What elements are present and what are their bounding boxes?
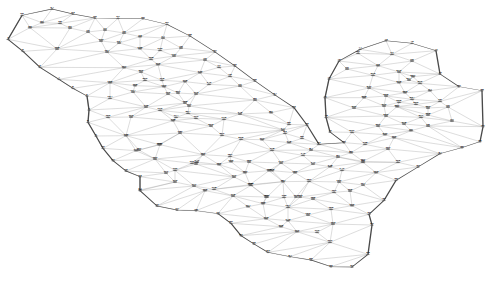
mesh-node-177[interactable] [260,139,264,140]
mesh-node-140[interactable] [207,84,211,85]
mesh-node-124[interactable] [108,98,112,99]
mesh-node-160[interactable] [229,161,233,162]
mesh-node-117[interactable] [192,185,196,186]
mesh-node-225[interactable] [397,102,401,103]
mesh-node-34[interactable] [439,153,442,154]
mesh-node-126[interactable] [106,117,110,118]
mesh-node-45[interactable] [338,61,341,62]
mesh-node-83[interactable] [283,133,287,134]
mesh-node-62[interactable] [94,18,97,19]
mesh-node-97[interactable] [450,120,454,121]
mesh-node-163[interactable] [294,196,298,197]
mesh-node-181[interactable] [307,181,311,182]
mesh-node-111[interactable] [295,231,299,232]
mesh-node-200[interactable] [143,80,147,81]
mesh-node-48[interactable] [325,117,328,118]
mesh-node-37[interactable] [482,126,485,127]
mesh-node-162[interactable] [203,190,207,191]
mesh-node-214[interactable] [407,79,411,80]
mesh-node-99[interactable] [409,130,413,131]
mesh-node-17[interactable] [176,210,179,211]
mesh-node-38[interactable] [481,90,484,91]
mesh-node-146[interactable] [301,155,305,156]
mesh-node-221[interactable] [395,106,399,107]
mesh-node-229[interactable] [426,107,430,108]
mesh-node-161[interactable] [194,163,198,164]
mesh-node-119[interactable] [232,176,236,177]
mesh-node-63[interactable] [72,14,75,15]
mesh-node-223[interactable] [403,92,407,93]
mesh-node-84[interactable] [309,149,313,150]
mesh-node-59[interactable] [166,24,169,25]
mesh-node-67[interactable] [40,22,44,23]
mesh-node-168[interactable] [149,59,153,60]
mesh-node-142[interactable] [238,113,242,114]
mesh-node-50[interactable] [343,142,346,143]
mesh-node-41[interactable] [435,50,438,51]
mesh-node-192[interactable] [144,106,148,107]
mesh-node-69[interactable] [68,27,72,28]
mesh-node-222[interactable] [384,95,388,96]
mesh-node-197[interactable] [187,105,191,106]
mesh-node-199[interactable] [194,118,198,119]
mesh-node-5[interactable] [72,88,75,89]
mesh-node-128[interactable] [55,48,59,49]
mesh-node-39[interactable] [458,86,461,87]
mesh-node-8[interactable] [87,122,90,123]
mesh-node-125[interactable] [108,82,112,83]
mesh-node-169[interactable] [162,86,166,87]
mesh-node-22[interactable] [253,244,256,245]
mesh-node-46[interactable] [328,79,331,80]
mesh-node-209[interactable] [376,125,380,126]
mesh-node-61[interactable] [117,18,120,19]
mesh-node-224[interactable] [410,99,414,100]
mesh-node-215[interactable] [397,82,401,83]
mesh-node-56[interactable] [234,66,237,67]
mesh-node-68[interactable] [58,23,62,24]
mesh-node-1[interactable] [7,39,10,40]
mesh-node-98[interactable] [426,125,430,126]
mesh-node-9[interactable] [95,136,98,137]
mesh-node-30[interactable] [368,214,371,215]
mesh-node-87[interactable] [336,156,340,157]
mesh-node-208[interactable] [362,97,366,98]
mesh-node-149[interactable] [340,170,344,171]
mesh-node-148[interactable] [328,166,332,167]
mesh-node-10[interactable] [102,148,105,149]
mesh-node-231[interactable] [350,132,354,133]
mesh-node-112[interactable] [279,226,283,227]
mesh-node-73[interactable] [138,36,142,37]
mesh-node-23[interactable] [267,252,270,253]
mesh-node-118[interactable] [212,189,216,190]
mesh-node-216[interactable] [418,83,422,84]
mesh-node-182[interactable] [311,198,315,199]
mesh-node-36[interactable] [479,141,482,142]
mesh-node-65[interactable] [21,15,24,16]
mesh-node-167[interactable] [122,67,126,68]
mesh-node-92[interactable] [410,60,414,61]
mesh-node-217[interactable] [419,117,423,118]
mesh-node-170[interactable] [156,64,160,65]
mesh-node-31[interactable] [383,200,386,201]
mesh-node-93[interactable] [376,65,380,66]
mesh-node-173[interactable] [194,93,198,94]
mesh-node-159[interactable] [243,172,247,173]
mesh-node-25[interactable] [310,260,313,261]
mesh-node-150[interactable] [337,181,341,182]
mesh-node-47[interactable] [324,97,327,98]
mesh-node-165[interactable] [133,85,137,86]
mesh-node-186[interactable] [247,161,251,162]
mesh-node-213[interactable] [397,71,401,72]
mesh-node-29[interactable] [371,225,374,226]
mesh-node-60[interactable] [142,18,145,19]
mesh-node-89[interactable] [356,53,360,54]
mesh-node-219[interactable] [383,134,387,135]
mesh-node-137[interactable] [172,55,176,56]
mesh-node-226[interactable] [414,104,418,105]
mesh-node-228[interactable] [426,114,430,115]
mesh-node-175[interactable] [222,119,226,120]
mesh-node-13[interactable] [139,176,142,177]
mesh-node-189[interactable] [178,132,182,133]
mesh-node-94[interactable] [428,90,432,91]
mesh-node-187[interactable] [228,156,232,157]
